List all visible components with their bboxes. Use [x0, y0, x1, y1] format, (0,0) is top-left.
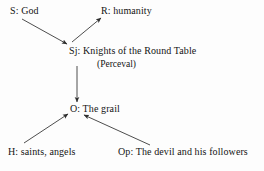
node-label-opponent: Op: The devil and his followers [118, 146, 248, 158]
arrow-opponent-to-object [84, 115, 150, 145]
arrow-subject-to-receiver [72, 18, 101, 42]
node-label-receiver: R: humanity [101, 5, 152, 17]
node-sublabel-subject: (Perceval) [97, 59, 136, 70]
node-label-subject: Sj: Knights of the Round Table [69, 45, 196, 57]
arrow-sender-to-subject [22, 19, 67, 44]
node-label-sender: S: God [10, 5, 39, 17]
arrow-helper-to-object [24, 114, 68, 143]
node-label-helper: H: saints, angels [8, 146, 76, 158]
node-label-object: O: The grail [70, 103, 120, 115]
actantial-model-diagram: S: God R: humanity Sj: Knights of the Ro… [0, 0, 264, 171]
